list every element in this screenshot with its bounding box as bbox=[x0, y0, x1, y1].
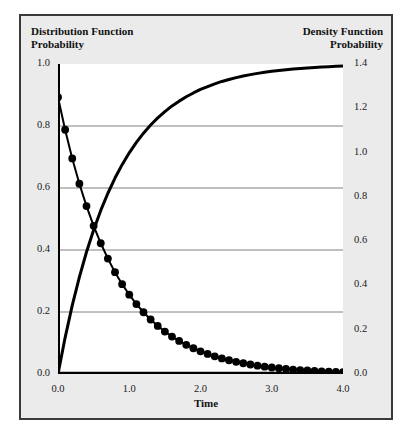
y2-tick-label: 1.4 bbox=[354, 57, 384, 68]
plot-area bbox=[58, 64, 343, 374]
series-marker-1 bbox=[239, 359, 247, 367]
y2-tick-label: 1.0 bbox=[354, 146, 384, 157]
series-marker-1 bbox=[189, 344, 197, 352]
series-marker-1 bbox=[268, 364, 276, 372]
y-tick-label: 0.6 bbox=[24, 181, 50, 192]
series-marker-1 bbox=[211, 352, 219, 360]
x-tick-label: 2.0 bbox=[183, 383, 219, 394]
series-marker-1 bbox=[325, 368, 333, 374]
series-marker-1 bbox=[147, 316, 155, 324]
y2-tick-label: 0.2 bbox=[354, 323, 384, 334]
series-marker-1 bbox=[275, 364, 283, 372]
y2-tick-label: 1.2 bbox=[354, 101, 384, 112]
y-tick-label: 0.8 bbox=[24, 119, 50, 130]
right-axis-title: Density Function Probability bbox=[303, 25, 383, 51]
series-marker-1 bbox=[97, 239, 105, 247]
series-marker-1 bbox=[175, 337, 183, 345]
y2-tick-label: 0.0 bbox=[354, 367, 384, 378]
series-marker-1 bbox=[232, 358, 240, 366]
y-tick-label: 0.0 bbox=[24, 367, 50, 378]
x-tick-label: 1.0 bbox=[111, 383, 147, 394]
y2-tick-label: 0.4 bbox=[354, 278, 384, 289]
series-marker-1 bbox=[296, 366, 304, 374]
series-marker-1 bbox=[339, 368, 343, 374]
left-axis-title: Distribution Function Probability bbox=[31, 25, 133, 51]
series-marker-1 bbox=[83, 202, 91, 210]
series-marker-1 bbox=[168, 333, 176, 341]
series-marker-1 bbox=[311, 367, 319, 374]
series-marker-1 bbox=[75, 180, 83, 188]
series-marker-1 bbox=[61, 126, 69, 134]
series-marker-1 bbox=[104, 255, 112, 263]
x-tick-label: 0.0 bbox=[40, 383, 76, 394]
series-marker-1 bbox=[125, 291, 133, 299]
y-tick-label: 0.4 bbox=[24, 243, 50, 254]
series-marker-1 bbox=[204, 350, 212, 358]
series-marker-1 bbox=[58, 93, 62, 101]
series-marker-1 bbox=[318, 367, 326, 374]
series-marker-1 bbox=[90, 222, 98, 230]
gridlines bbox=[58, 126, 343, 312]
series-marker-1 bbox=[182, 341, 190, 349]
y-tick-label: 1.0 bbox=[24, 57, 50, 68]
axis-ticks bbox=[58, 64, 343, 374]
series-marker-1 bbox=[303, 367, 311, 374]
chart-axes bbox=[58, 64, 343, 374]
series-marker-1 bbox=[282, 365, 290, 373]
series-marker-1 bbox=[118, 280, 126, 288]
series-marker-1 bbox=[154, 322, 162, 330]
series-marker-1 bbox=[254, 362, 262, 370]
series-marker-1 bbox=[246, 361, 254, 369]
y2-tick-label: 0.6 bbox=[354, 234, 384, 245]
x-tick-label: 4.0 bbox=[325, 383, 361, 394]
series-marker-1 bbox=[140, 308, 148, 316]
series-marker-1 bbox=[225, 356, 233, 364]
series-marker-1 bbox=[111, 268, 119, 276]
series-marker-1 bbox=[132, 300, 140, 308]
x-tick-label: 3.0 bbox=[254, 383, 290, 394]
y2-tick-label: 0.8 bbox=[354, 190, 384, 201]
series-line-1 bbox=[58, 97, 343, 372]
chart-panel: Distribution Function Probability Densit… bbox=[19, 14, 393, 420]
series-marker-1 bbox=[261, 363, 269, 371]
data-series bbox=[58, 66, 343, 374]
series-marker-1 bbox=[68, 155, 76, 163]
y-tick-label: 0.2 bbox=[24, 305, 50, 316]
series-marker-1 bbox=[161, 328, 169, 336]
series-marker-1 bbox=[289, 366, 297, 374]
series-marker-1 bbox=[197, 347, 205, 355]
series-marker-1 bbox=[332, 368, 340, 374]
x-axis-label: Time bbox=[21, 397, 391, 409]
series-line-0 bbox=[58, 66, 343, 374]
series-marker-1 bbox=[218, 354, 226, 362]
plot-svg bbox=[58, 64, 343, 374]
chart-figure: Distribution Function Probability Densit… bbox=[0, 0, 413, 442]
